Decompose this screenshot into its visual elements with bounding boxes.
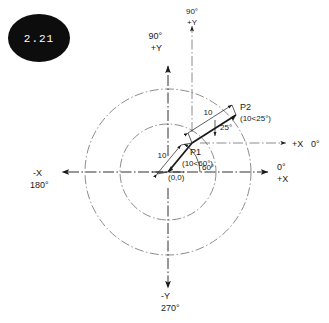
secondary-east-axis-label: +X (292, 139, 303, 149)
figure-number-badge: 2.21 (8, 14, 70, 62)
east-axis-label: +X (277, 174, 288, 184)
p2-name: P2 (240, 102, 251, 112)
north-angle-label: 90° (148, 31, 162, 41)
p1-name: P1 (190, 147, 201, 157)
south-angle-label: 270° (161, 303, 180, 313)
north-axis-label: +Y (151, 43, 162, 53)
secondary-north-axis-label: +Y (187, 18, 198, 27)
dimension-label-p1-p2: 10 (204, 108, 213, 117)
east-angle-label: 0° (277, 162, 286, 172)
badge-label: 2.21 (24, 33, 54, 45)
origin-label: (0,0) (168, 173, 185, 182)
south-axis-label: -Y (161, 291, 170, 301)
p2-polar-value: (10<25°) (240, 114, 271, 123)
angle-label-25: 25° (220, 123, 232, 132)
dimension-label-origin-p1: 10 (158, 151, 167, 160)
secondary-north-angle-label: 90° (186, 7, 198, 16)
west-angle-label: 180° (30, 180, 49, 190)
secondary-east-angle-label: 0° (311, 139, 320, 149)
polar-coordinate-diagram: 2.21 10 10 60° (0, 0, 329, 323)
west-axis-label: -X (33, 168, 42, 178)
p1-polar-value: (10<60°) (182, 159, 213, 168)
